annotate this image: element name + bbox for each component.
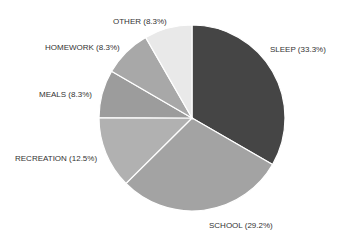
slice-label-meals: MEALS (8.3%) — [39, 90, 92, 99]
slice-label-other: OTHER (8.3%) — [113, 17, 167, 26]
slice-label-recreation: RECREATION (12.5%) — [15, 154, 97, 163]
pie-chart: SLEEP (33.3%)SCHOOL (29.2%)RECREATION (1… — [0, 0, 339, 242]
pie-slices — [99, 25, 285, 211]
slice-label-homework: HOMEWORK (8.3%) — [45, 43, 120, 52]
slice-label-school: SCHOOL (29.2%) — [209, 221, 273, 230]
slice-label-sleep: SLEEP (33.3%) — [270, 45, 326, 54]
